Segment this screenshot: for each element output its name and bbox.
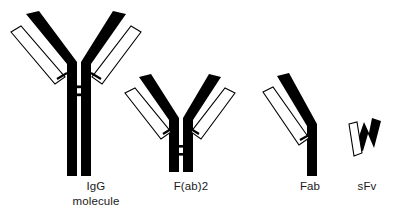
fab2-hinge-bar-upper (179, 145, 183, 148)
fab-label: Fab (300, 180, 320, 192)
igg-hinge-bar-lower (77, 94, 81, 97)
antibody-diagram-figure: IgG molecule F(ab)2 (0, 0, 398, 214)
igg-label-line2: molecule (73, 195, 120, 207)
fab2-hinge-bar-lower (179, 153, 183, 156)
diagram-canvas: IgG molecule F(ab)2 (0, 0, 398, 214)
igg-label-line1: IgG (87, 180, 106, 192)
fab2-label: F(ab)2 (174, 180, 208, 192)
sfv-label: sFv (358, 180, 377, 192)
igg-hinge-bar-upper (77, 86, 81, 89)
